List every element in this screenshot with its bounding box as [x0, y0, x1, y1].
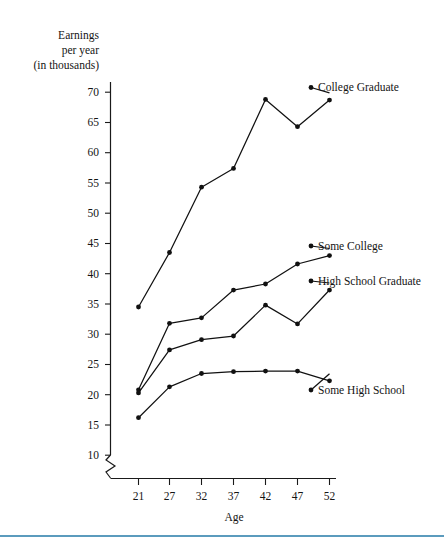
series-line — [139, 290, 330, 393]
data-point — [199, 185, 204, 190]
series-label-high-school-graduate: High School Graduate — [318, 275, 421, 288]
data-point — [327, 98, 332, 103]
figure-container: Earnings per year (in thousands) 70 65 — [0, 0, 444, 556]
series-layer — [136, 97, 332, 420]
y-tick-label: 70 — [88, 86, 100, 98]
y-axis-ticks — [105, 92, 111, 455]
y-tick-label: 20 — [88, 389, 100, 401]
data-point — [199, 337, 204, 342]
data-point — [295, 124, 300, 129]
x-tick-label: 47 — [292, 490, 304, 502]
data-point — [263, 369, 268, 374]
data-point — [231, 166, 236, 171]
data-point — [295, 322, 300, 327]
x-axis-tick-labels: 21 27 32 37 42 47 52 — [133, 490, 336, 502]
data-point — [327, 378, 332, 383]
series-line — [139, 99, 330, 307]
series-annotations: College Graduate Some College High Schoo… — [309, 81, 421, 397]
y-tick-label: 15 — [88, 419, 100, 431]
series-label-some-high-school: Some High School — [318, 384, 405, 397]
data-point — [231, 334, 236, 339]
series-college-graduate — [136, 97, 332, 309]
data-point — [327, 253, 332, 258]
data-point — [263, 303, 268, 308]
x-tick-label: 32 — [196, 490, 208, 502]
series-label-college-graduate: College Graduate — [318, 81, 399, 94]
y-tick-label: 40 — [88, 268, 100, 280]
series-label-some-college: Some College — [318, 240, 383, 253]
y-tick-label: 25 — [88, 358, 100, 370]
y-tick-label: 60 — [88, 146, 100, 158]
y-axis-title-line-2: per year — [62, 44, 100, 57]
x-tick-label: 21 — [133, 490, 145, 502]
data-point — [199, 371, 204, 376]
data-point — [231, 288, 236, 293]
data-point — [327, 288, 332, 293]
data-point — [231, 369, 236, 374]
label-marker-some-college — [309, 244, 314, 249]
label-marker-college-graduate — [309, 85, 314, 90]
y-tick-label: 10 — [88, 449, 100, 461]
y-axis-title-line-1: Earnings — [58, 29, 99, 42]
y-axis-title-line-3: (in thousands) — [34, 59, 100, 72]
label-marker-high-school-graduate — [309, 279, 314, 284]
x-axis-title: Age — [224, 511, 243, 524]
data-point — [136, 390, 141, 395]
data-point — [136, 305, 141, 310]
y-tick-label: 30 — [88, 328, 100, 340]
data-point — [295, 369, 300, 374]
data-point — [295, 262, 300, 267]
series-some-high-school — [136, 369, 332, 420]
x-axis-ticks — [139, 479, 330, 486]
data-point — [167, 348, 172, 353]
data-point — [263, 97, 268, 102]
x-tick-label: 37 — [228, 490, 240, 502]
line-chart: Earnings per year (in thousands) 70 65 — [0, 0, 444, 556]
y-tick-label: 35 — [88, 298, 100, 310]
data-point — [167, 384, 172, 389]
y-axis-break-mark — [106, 455, 115, 478]
y-axis-tick-labels: 70 65 60 55 50 45 40 35 30 25 20 15 10 — [88, 86, 100, 461]
x-tick-label: 42 — [260, 490, 272, 502]
data-point — [263, 282, 268, 287]
x-tick-label: 27 — [164, 490, 176, 502]
bottom-divider-rule — [0, 535, 444, 537]
data-point — [199, 315, 204, 320]
data-point — [167, 250, 172, 255]
data-point — [167, 321, 172, 326]
y-tick-label: 55 — [88, 177, 100, 189]
series-line — [139, 371, 330, 418]
label-marker-some-high-school — [309, 388, 314, 393]
y-tick-label: 50 — [88, 207, 100, 219]
series-high-school-graduate — [136, 288, 332, 396]
x-tick-label: 52 — [324, 490, 336, 502]
y-tick-label: 45 — [88, 237, 100, 249]
y-tick-label: 65 — [88, 116, 100, 128]
data-point — [136, 415, 141, 420]
